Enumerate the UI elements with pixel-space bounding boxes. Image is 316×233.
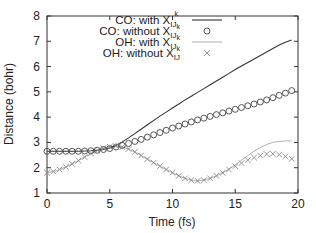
cross-marker	[207, 176, 213, 182]
cross-marker	[145, 156, 151, 162]
legend-label: OH: without XIJ	[103, 47, 180, 62]
circle-marker	[144, 134, 150, 140]
circle-marker	[138, 136, 144, 142]
circle-marker	[207, 113, 213, 119]
y-tick-label: 1	[33, 186, 40, 200]
series-co-without-markers	[44, 88, 295, 155]
legend-circle-marker	[204, 28, 210, 34]
y-tick-label: 8	[33, 9, 40, 23]
circle-marker	[257, 99, 263, 105]
circle-marker	[176, 123, 182, 129]
circle-marker	[251, 101, 257, 107]
cross-marker	[126, 146, 132, 152]
cross-marker	[63, 164, 69, 170]
cross-marker	[76, 158, 82, 164]
y-axis-label: Distance (bohr)	[2, 63, 16, 145]
circle-marker	[213, 112, 219, 118]
x-tick-label: 15	[229, 197, 243, 211]
circle-marker	[170, 125, 176, 131]
cross-marker	[163, 167, 169, 173]
cross-marker	[283, 154, 289, 160]
y-tick-label: 5	[33, 85, 40, 99]
circle-marker	[276, 92, 282, 98]
legend-superscript: k	[175, 10, 179, 17]
cross-marker	[245, 157, 251, 163]
cross-marker	[82, 154, 88, 160]
x-tick-label: 10	[166, 197, 180, 211]
legend-cross-marker	[204, 50, 210, 56]
x-tick-label: 5	[106, 197, 113, 211]
circle-marker	[126, 140, 132, 146]
line-chart: 0510152012345678 CO: with XIJkkCO: witho…	[0, 0, 316, 233]
x-tick-label: 0	[44, 197, 51, 211]
cross-marker	[157, 163, 163, 169]
circle-marker	[132, 138, 138, 144]
y-tick-label: 6	[33, 60, 40, 74]
y-tick-label: 3	[33, 135, 40, 149]
y-tick-label: 4	[33, 110, 40, 124]
circle-marker	[264, 97, 270, 103]
cross-marker	[220, 170, 226, 176]
cross-marker	[251, 155, 257, 161]
circle-marker	[220, 110, 226, 116]
circle-marker	[151, 132, 157, 138]
cross-marker	[170, 170, 176, 176]
cross-marker	[264, 151, 270, 157]
x-axis-label: Time (fs)	[149, 215, 196, 229]
cross-marker	[138, 153, 144, 159]
circle-marker	[282, 90, 288, 96]
circle-marker	[201, 115, 207, 121]
circle-marker	[157, 130, 163, 136]
cross-marker	[69, 161, 75, 167]
cross-marker	[289, 156, 295, 162]
circle-marker	[188, 119, 194, 125]
y-tick-label: 2	[33, 161, 40, 175]
cross-marker	[258, 153, 264, 159]
cross-marker	[214, 173, 220, 179]
y-tick-label: 7	[33, 34, 40, 48]
cross-marker	[176, 173, 182, 179]
circle-marker	[270, 95, 276, 101]
cross-marker	[151, 160, 157, 166]
x-tick-label: 20	[291, 197, 305, 211]
circle-marker	[182, 121, 188, 127]
circle-marker	[289, 88, 295, 94]
plot-series	[44, 40, 295, 184]
circle-marker	[232, 106, 238, 112]
circle-marker	[226, 108, 232, 114]
series-oh-with-line	[47, 141, 292, 181]
cross-marker	[239, 160, 245, 166]
cross-marker	[132, 149, 138, 155]
circle-marker	[195, 117, 201, 123]
circle-marker	[163, 127, 169, 133]
circle-marker	[239, 105, 245, 111]
chart-legend: CO: with XIJkkCO: without XIJkOH: with X…	[99, 10, 222, 62]
cross-marker	[276, 152, 282, 158]
cross-marker	[57, 167, 63, 173]
circle-marker	[245, 103, 251, 109]
cross-marker	[226, 167, 232, 173]
cross-marker	[270, 151, 276, 157]
